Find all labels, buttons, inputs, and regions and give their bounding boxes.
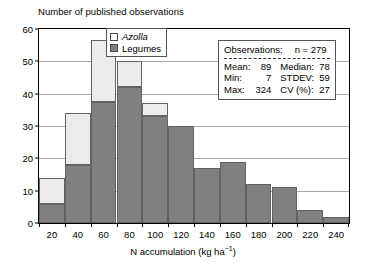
y-axis-tick-label: 40 <box>7 88 33 99</box>
x-axis-tick-mark <box>297 223 298 227</box>
bar-group <box>297 210 323 223</box>
statistics-value: 324 <box>255 84 271 96</box>
statistics-value: 78 <box>319 61 330 73</box>
statistics-value: 7 <box>255 72 271 84</box>
bar-segment-legumes <box>65 165 91 223</box>
x-axis-tick-label: 220 <box>302 229 318 240</box>
x-axis-tick-label: 60 <box>98 229 109 240</box>
bar-group <box>272 187 298 223</box>
statistics-key: Max: <box>224 84 250 96</box>
x-axis-tick-mark <box>323 223 324 227</box>
bar-segment-azolla <box>39 178 65 204</box>
x-axis-title-superscript: −1 <box>225 245 233 252</box>
chart-legend: Azolla Legumes <box>106 28 167 57</box>
y-axis-tick-label: 10 <box>7 185 33 196</box>
statistics-key: STDEV: <box>276 72 314 84</box>
bar-segment-legumes <box>297 210 323 223</box>
bar-segment-legumes <box>246 184 272 223</box>
y-axis-tick-label: 20 <box>7 153 33 164</box>
legend-label-legumes: Legumes <box>122 43 161 55</box>
x-axis-title-suffix: ) <box>233 246 236 257</box>
bar-segment-legumes <box>91 102 117 223</box>
x-axis-tick-mark <box>348 223 349 227</box>
statistics-value: 59 <box>319 72 330 84</box>
bar-segment-legumes <box>117 87 143 223</box>
bar-segment-legumes <box>142 116 168 223</box>
x-axis-tick-mark <box>272 223 273 227</box>
statistics-value: 89 <box>255 61 271 73</box>
x-axis-tick-label: 180 <box>251 229 267 240</box>
bar-segment-azolla <box>142 103 168 116</box>
x-axis-tick-label: 160 <box>225 229 241 240</box>
x-axis-tick-mark <box>39 223 40 227</box>
x-axis-tick-label: 200 <box>276 229 292 240</box>
x-axis-tick-mark <box>246 223 247 227</box>
x-axis-tick-mark <box>142 223 143 227</box>
y-axis-tick-label: 0 <box>7 218 33 229</box>
bar-segment-azolla <box>117 61 143 87</box>
legend-swatch-legumes-icon <box>110 44 118 52</box>
bar-group <box>65 113 91 223</box>
bar-group <box>246 184 272 223</box>
x-axis-tick-label: 40 <box>72 229 83 240</box>
x-axis-title-prefix: N accumulation (kg ha <box>130 246 225 257</box>
x-axis-tick-label: 240 <box>328 229 344 240</box>
y-axis-tick-label: 60 <box>7 24 33 35</box>
legend-swatch-azolla-icon <box>110 33 118 41</box>
bar-group <box>142 103 168 223</box>
x-axis-tick-label: 80 <box>124 229 135 240</box>
x-axis-tick-label: 100 <box>147 229 163 240</box>
statistics-observations-label: Observations: <box>224 44 283 56</box>
bar-segment-azolla <box>65 113 91 165</box>
y-axis-tick-label: 30 <box>7 121 33 132</box>
chart-title: Number of published observations <box>38 6 184 18</box>
statistics-key: Mean: <box>224 61 250 73</box>
chart-figure: Number of published observations 0102030… <box>0 0 366 272</box>
x-axis-tick-mark <box>194 223 195 227</box>
statistics-header: Observations: n = 279 <box>224 44 330 56</box>
statistics-key: CV (%): <box>276 84 314 96</box>
statistics-key: Min: <box>224 72 250 84</box>
bar-group <box>194 168 220 223</box>
bar-segment-legumes <box>323 217 349 223</box>
bar-segment-legumes <box>220 162 246 223</box>
bar-segment-legumes <box>168 126 194 223</box>
x-axis-tick-mark <box>220 223 221 227</box>
legend-label-azolla: Azolla <box>122 31 148 43</box>
x-axis-tick-mark <box>117 223 118 227</box>
bar-group <box>323 217 349 223</box>
bar-segment-legumes <box>272 187 298 223</box>
x-axis-tick-label: 120 <box>173 229 189 240</box>
statistics-grid: Mean:89Median:78Min:7STDEV:59Max:324CV (… <box>224 61 330 96</box>
bar-group <box>168 126 194 223</box>
statistics-box: Observations: n = 279 Mean:89Median:78Mi… <box>218 40 336 100</box>
legend-item-azolla: Azolla <box>110 31 161 43</box>
statistics-value: 27 <box>319 84 330 96</box>
statistics-key: Median: <box>276 61 314 73</box>
x-axis-tick-label: 20 <box>47 229 58 240</box>
legend-item-legumes: Legumes <box>110 43 161 55</box>
bar-segment-legumes <box>39 204 65 223</box>
bar-group <box>91 40 117 223</box>
statistics-divider <box>224 58 330 59</box>
bar-group <box>220 162 246 223</box>
bar-segment-legumes <box>194 168 220 223</box>
x-axis-tick-mark <box>65 223 66 227</box>
x-axis-tick-mark <box>91 223 92 227</box>
y-axis-tick-label: 50 <box>7 56 33 67</box>
bar-group <box>39 178 65 223</box>
x-axis-tick-label: 140 <box>199 229 215 240</box>
x-axis-tick-mark <box>168 223 169 227</box>
bar-group <box>117 61 143 223</box>
statistics-observations-value: n = 279 <box>295 44 327 56</box>
x-axis-title: N accumulation (kg ha−1) <box>0 246 366 257</box>
